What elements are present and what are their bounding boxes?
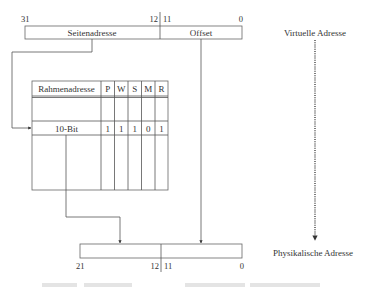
offset-field: Offset <box>190 28 213 38</box>
virtual-bit-11: 11 <box>163 14 171 24</box>
header-r: R <box>158 84 164 94</box>
physical-bit-21: 21 <box>76 261 85 271</box>
physical-bit-0: 0 <box>240 261 244 271</box>
physical-bit-11: 11 <box>164 261 172 271</box>
virtual-bit-31: 31 <box>21 14 30 24</box>
virtual-bit-0: 0 <box>239 14 243 24</box>
entry-w: 1 <box>119 124 124 134</box>
header-m: M <box>144 84 152 94</box>
virtual-address-register: 31 12 11 0 Seitenadresse Offset <box>21 12 243 39</box>
virtual-address-label: Virtuelle Adresse <box>284 28 346 38</box>
paging-diagram: 31 12 11 0 Seitenadresse Offset Virtuell… <box>0 0 376 287</box>
virtual-bit-12: 12 <box>150 14 159 24</box>
entry-s: 1 <box>133 124 138 134</box>
header-frame-address: Rahmenadresse <box>38 84 94 94</box>
physical-address-register: 21 12 11 0 <box>76 244 244 272</box>
page-address-field: Seitenadresse <box>68 28 117 38</box>
header-p: P <box>105 84 110 94</box>
entry-frame-address: 10-Bit <box>55 124 79 134</box>
header-s: S <box>132 84 137 94</box>
header-w: W <box>117 84 126 94</box>
page-table: Rahmenadresse P W S M R 10-Bit 1 1 1 0 1 <box>32 81 168 190</box>
entry-m: 0 <box>146 124 151 134</box>
entry-r: 1 <box>159 124 164 134</box>
entry-p: 1 <box>106 124 111 134</box>
cropped-caption <box>42 283 320 287</box>
physical-bit-12: 12 <box>151 261 160 271</box>
physical-address-label: Physikalische Adresse <box>273 248 353 258</box>
